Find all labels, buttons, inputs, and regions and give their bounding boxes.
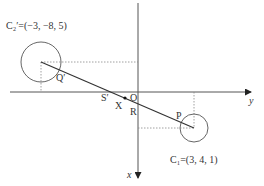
label-p: P xyxy=(176,110,182,121)
diagram-canvas: C₂′=(−3, −8, 5) C₁=(3, 4, 1) Q′ S′ X R P… xyxy=(0,0,264,186)
label-q-prime: Q′ xyxy=(56,72,65,83)
label-x-point: X xyxy=(115,100,123,111)
label-r: R xyxy=(130,106,137,117)
point-x-marker xyxy=(123,96,126,99)
label-c2-prime: C₂′=(−3, −8, 5) xyxy=(6,20,67,32)
label-s-prime: S′ xyxy=(101,92,109,103)
label-origin: O xyxy=(130,92,137,103)
label-y-axis: y xyxy=(248,95,254,106)
label-x-axis: x xyxy=(126,169,132,180)
label-c1: C₁=(3, 4, 1) xyxy=(170,154,217,166)
